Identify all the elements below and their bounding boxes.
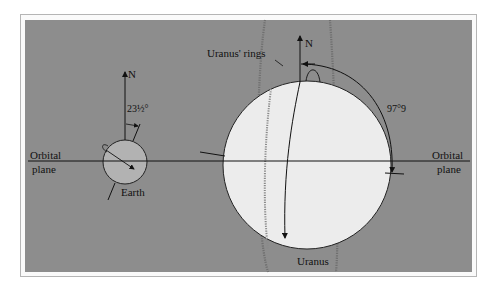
rings-leader-line xyxy=(275,60,283,66)
earth-tilt-marker xyxy=(126,124,138,126)
earth-planet xyxy=(103,140,147,184)
uranus-name-label: Uranus xyxy=(297,255,329,267)
earth-north-label: N xyxy=(128,68,136,80)
uranus-north-label: N xyxy=(305,37,313,49)
earth-axis-top xyxy=(133,124,140,141)
uranus-tilt-label: 97°9 xyxy=(387,103,406,115)
earth-axis-bottom xyxy=(108,183,115,200)
uranus-rings-label: Uranus' rings xyxy=(207,47,266,59)
orbital-plane-right-line2: plane xyxy=(437,163,461,175)
orbital-plane-left-line2: plane xyxy=(32,163,56,175)
uranus-rotation-loop xyxy=(306,70,320,82)
orbital-plane-left-line1: Orbital xyxy=(30,149,61,161)
earth-tilt-label: 23½° xyxy=(127,103,149,115)
uranus-planet xyxy=(223,81,391,249)
earth-name-label: Earth xyxy=(121,186,145,198)
planet-tilt-diagram xyxy=(0,0,495,300)
orbital-plane-right-line1: Orbital xyxy=(432,149,463,161)
uranus-equator-stub-left xyxy=(200,152,225,156)
